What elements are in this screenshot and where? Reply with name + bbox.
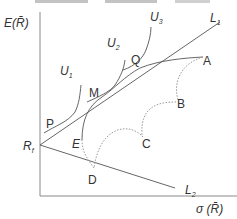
dotted-frontier bbox=[82, 57, 203, 168]
label-u3: U3 bbox=[150, 10, 163, 25]
label-u2: U2 bbox=[107, 36, 120, 51]
label-e: E bbox=[72, 137, 81, 151]
label-rf: Rf bbox=[23, 139, 35, 154]
label-a: A bbox=[203, 54, 211, 68]
label-p: P bbox=[46, 117, 54, 131]
x-axis-label: σ (R̄) bbox=[196, 202, 223, 216]
label-m: M bbox=[89, 86, 99, 100]
portfolio-diagram: E(R̄) σ (R̄) L1 L2 U1 U2 U3 Rf P M Q A B… bbox=[0, 0, 237, 219]
label-c: C bbox=[142, 137, 151, 151]
label-b: B bbox=[177, 97, 185, 111]
line-l2 bbox=[40, 145, 175, 188]
label-l2: L2 bbox=[185, 183, 196, 198]
label-l1: L1 bbox=[210, 11, 221, 26]
line-l1 bbox=[40, 22, 220, 145]
label-u1: U1 bbox=[60, 64, 73, 79]
y-axis-label: E(R̄) bbox=[4, 16, 29, 30]
label-d: D bbox=[88, 173, 97, 187]
label-q: Q bbox=[131, 53, 140, 67]
